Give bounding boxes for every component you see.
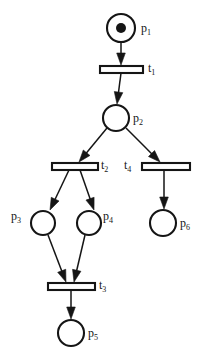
place-label-p5: p5 (88, 327, 98, 339)
place-p5[interactable] (58, 320, 84, 346)
place-circle[interactable] (150, 210, 176, 236)
place-circle[interactable] (103, 105, 129, 131)
transition-bar[interactable] (142, 163, 190, 170)
arc-p3-t3 (48, 235, 66, 282)
petri-net-diagram: p1p2p3p4p5p6t1t2t3t4 (0, 0, 203, 364)
arc-t4-p6 (160, 170, 169, 209)
arrowhead (67, 307, 76, 319)
place-label-subscript: 4 (109, 216, 113, 225)
arc-t2-p3 (50, 170, 69, 210)
place-p1[interactable] (107, 14, 135, 42)
place-label-p1: p1 (141, 22, 151, 34)
place-label-subscript: 2 (139, 118, 143, 127)
transition-label-t3: t3 (99, 279, 106, 291)
transition-t3[interactable] (48, 283, 95, 290)
transition-label-subscript: 4 (127, 165, 131, 174)
place-p2[interactable] (103, 105, 129, 131)
place-label-p3: p3 (11, 210, 21, 222)
arc-shaft (80, 170, 91, 201)
transition-label-subscript: 1 (151, 68, 155, 77)
transition-label-t2: t2 (101, 159, 108, 171)
petri-net-svg (0, 0, 203, 364)
arc-p1-t1 (117, 42, 126, 65)
place-label-subscript: 6 (186, 223, 190, 232)
arc-t3-p5 (67, 290, 76, 319)
place-circle[interactable] (77, 211, 101, 235)
place-p4[interactable] (77, 211, 101, 235)
arrowhead (50, 197, 59, 210)
transition-t4[interactable] (142, 163, 190, 170)
place-label-p4: p4 (103, 210, 113, 222)
transition-bar[interactable] (48, 283, 95, 290)
transition-label-subscript: 2 (104, 165, 108, 174)
arc-shaft (48, 235, 62, 273)
token-dot (116, 23, 126, 33)
transition-t1[interactable] (100, 66, 143, 73)
arc-p2-t4 (126, 128, 160, 162)
place-circle[interactable] (31, 211, 55, 235)
transition-bar[interactable] (100, 66, 143, 73)
place-label-subscript: 5 (94, 333, 98, 342)
arc-shaft (126, 128, 153, 155)
arc-p4-t3 (73, 235, 85, 282)
arrowhead (58, 269, 66, 282)
transition-bar[interactable] (52, 163, 98, 170)
arc-shaft (118, 73, 121, 94)
arc-shaft (76, 235, 85, 272)
arrowhead (114, 92, 123, 104)
arrowhead (73, 269, 81, 282)
arc-t1-p2 (114, 73, 123, 104)
arc-t2-p4 (80, 170, 94, 210)
place-label-subscript: 3 (17, 216, 21, 225)
place-circle[interactable] (58, 320, 84, 346)
arrowhead (117, 53, 126, 65)
transition-label-t1: t1 (148, 62, 155, 74)
place-label-p2: p2 (133, 112, 143, 124)
arc-shaft (54, 170, 69, 201)
arc-p2-t2 (79, 128, 107, 162)
arcs-layer (48, 42, 168, 319)
place-p6[interactable] (150, 210, 176, 236)
transition-label-subscript: 3 (102, 285, 106, 294)
transition-label-t4: t4 (124, 159, 131, 171)
arrowhead (86, 197, 94, 210)
place-label-p6: p6 (180, 217, 190, 229)
transition-t2[interactable] (52, 163, 98, 170)
arc-shaft (85, 128, 107, 154)
place-label-subscript: 1 (147, 28, 151, 37)
arrowhead (160, 197, 169, 209)
place-p3[interactable] (31, 211, 55, 235)
